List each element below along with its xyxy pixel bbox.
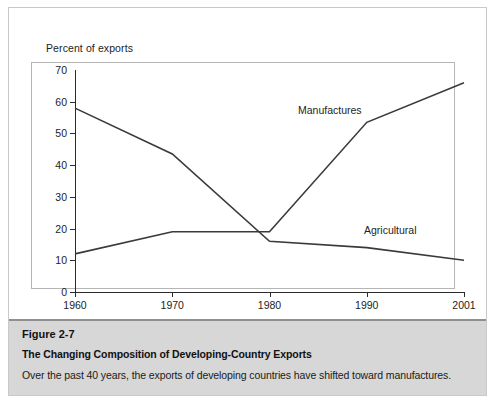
plot-frame xyxy=(31,62,455,289)
x-tick-mark xyxy=(367,292,368,297)
x-tick-mark xyxy=(75,292,76,297)
x-axis-line xyxy=(75,292,465,293)
chart-panel: Percent of exports 010203040506070 19601… xyxy=(9,8,486,319)
x-tick-label: 1990 xyxy=(337,299,397,311)
figure-number: Figure 2-7 xyxy=(22,328,75,340)
figure-card: Percent of exports 010203040506070 19601… xyxy=(8,7,487,396)
figure-title: The Changing Composition of Developing-C… xyxy=(22,348,312,360)
x-tick-label: 1960 xyxy=(45,299,105,311)
x-tick-label: 2001 xyxy=(434,299,494,311)
caption-block: Figure 2-7 The Changing Composition of D… xyxy=(9,319,486,395)
y-axis-title: Percent of exports xyxy=(46,42,133,54)
y-tick-mark xyxy=(70,292,75,293)
x-tick-mark xyxy=(270,292,271,297)
figure-description: Over the past 40 years, the exports of d… xyxy=(22,369,451,381)
x-tick-label: 1980 xyxy=(240,299,300,311)
x-tick-label: 1970 xyxy=(142,299,202,311)
x-tick-mark xyxy=(464,292,465,297)
x-tick-mark xyxy=(172,292,173,297)
caption-divider xyxy=(9,319,486,321)
